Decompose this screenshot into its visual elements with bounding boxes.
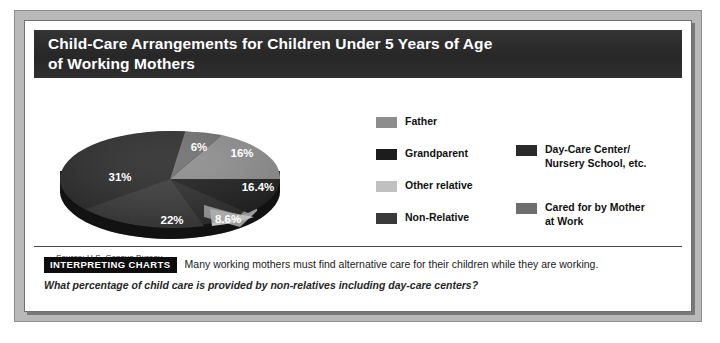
pie-chart-svg: 6% 16% 16.4% 8.6% 22% 31%	[52, 99, 302, 249]
chart-body: 6% 16% 16.4% 8.6% 22% 31% Source: U.S. C…	[34, 81, 682, 241]
pie-label-other-relative: 8.6%	[215, 213, 241, 225]
legend-swatch-day-care-center	[516, 145, 537, 156]
figure-outer-frame: Child-Care Arrangements for Children Und…	[14, 10, 702, 322]
pie-label-grandparent: 16.4%	[242, 181, 275, 193]
legend-label-grandparent: Grandparent	[405, 147, 468, 161]
legend-label-other-relative: Other relative	[405, 179, 473, 193]
legend-swatch-other-relative	[376, 181, 397, 192]
pie-label-cared-by-mother: 6%	[191, 141, 208, 153]
legend-swatch-non-relative	[376, 213, 397, 224]
legend-label-father: Father	[405, 115, 437, 129]
footer-lead-row: INTERPRETING CHARTS Many working mothers…	[44, 257, 682, 273]
pie-chart: 6% 16% 16.4% 8.6% 22% 31%	[52, 99, 302, 249]
figure-title-band: Child-Care Arrangements for Children Und…	[34, 30, 682, 78]
legend-swatch-grandparent	[376, 149, 397, 160]
legend-column-left: Father Grandparent Other relative Non-Re…	[376, 115, 516, 242]
legend-item-grandparent: Grandparent	[376, 147, 516, 161]
legend-item-cared-by-mother: Cared for by Mother at Work	[516, 201, 716, 229]
status-badge: INTERPRETING CHARTS	[44, 257, 177, 273]
pie-label-non-relative: 22%	[160, 214, 183, 226]
legend-item-father: Father	[376, 115, 516, 129]
legend-swatch-father	[376, 117, 397, 128]
legend-item-other-relative: Other relative	[376, 179, 516, 193]
footer-lead-text: Many working mothers must find alternati…	[185, 258, 599, 270]
chart-legend: Father Grandparent Other relative Non-Re…	[364, 115, 678, 237]
page-title: Child-Care Arrangements for Children Und…	[48, 34, 492, 74]
footer-question-text: What percentage of child care is provide…	[44, 279, 682, 291]
legend-swatch-cared-by-mother	[516, 203, 537, 214]
legend-item-day-care-center: Day-Care Center/ Nursery School, etc.	[516, 143, 716, 171]
pie-label-day-care-center: 31%	[108, 171, 131, 183]
legend-label-day-care-center: Day-Care Center/ Nursery School, etc.	[545, 143, 647, 171]
legend-column-right: Day-Care Center/ Nursery School, etc. Ca…	[516, 143, 716, 258]
legend-label-cared-by-mother: Cared for by Mother at Work	[545, 201, 645, 229]
interpreting-charts-footer: INTERPRETING CHARTS Many working mothers…	[34, 246, 682, 302]
legend-label-non-relative: Non-Relative	[405, 211, 469, 225]
figure-card: Child-Care Arrangements for Children Und…	[24, 20, 692, 312]
figure-title-line-2: of Working Mothers	[48, 54, 492, 74]
legend-item-non-relative: Non-Relative	[376, 211, 516, 225]
figure-title-line-1: Child-Care Arrangements for Children Und…	[48, 34, 492, 54]
pie-label-father: 16%	[230, 147, 253, 159]
